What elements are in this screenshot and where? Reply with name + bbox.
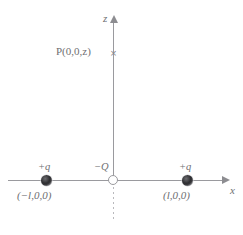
charge-left-coordinate-label: (−l,0,0) xyxy=(17,189,51,201)
physics-diagram: z x P(0,0,z) × +q (−l,0,0) −Q +q (l,0,0) xyxy=(0,0,243,235)
x-cross-marker-icon: × xyxy=(108,48,119,59)
z-axis-label: z xyxy=(103,12,107,24)
z-axis-arrowhead-icon xyxy=(110,15,118,23)
charge-left-symbol-label: +q xyxy=(38,161,50,172)
charge-left-dot xyxy=(41,175,52,186)
x-axis-label: x xyxy=(230,184,235,196)
charge-right-dot xyxy=(182,175,193,186)
charge-right-coordinate-label: (l,0,0) xyxy=(163,189,190,201)
z-axis-negative-dashed-line xyxy=(113,187,114,222)
z-axis-line xyxy=(113,22,114,181)
field-point-label: P(0,0,z) xyxy=(56,45,91,57)
charge-origin-symbol-label: −Q xyxy=(94,161,109,172)
charge-origin-circle xyxy=(108,175,118,185)
x-axis-arrowhead-icon xyxy=(222,176,230,184)
charge-right-symbol-label: +q xyxy=(179,161,191,172)
